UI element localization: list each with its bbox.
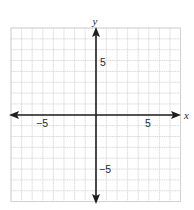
y-tick-label-neg5: −5 — [99, 163, 111, 175]
x-axis-label: x — [183, 109, 189, 121]
x-tick-label-pos5: 5 — [145, 117, 151, 129]
coordinate-plane: x y −5 5 5 −5 — [0, 0, 194, 210]
y-axis-label: y — [92, 15, 98, 27]
y-tick-label-pos5: 5 — [100, 56, 106, 68]
x-tick-label-neg5: −5 — [36, 117, 48, 129]
